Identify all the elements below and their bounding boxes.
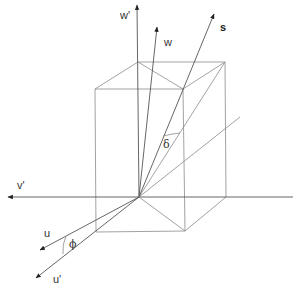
phi-arc	[63, 236, 66, 254]
w-prime-axis	[137, 5, 139, 197]
label-phi: ϕ	[69, 238, 77, 251]
labels: w' w s v' u u' δ ϕ	[17, 9, 226, 285]
w-axis	[139, 27, 157, 197]
diagonal-line	[139, 117, 240, 197]
axes	[8, 5, 293, 278]
label-u: u	[44, 227, 50, 239]
delta-arc	[163, 133, 180, 136]
u-axis	[40, 197, 139, 250]
label-v-prime: v'	[17, 179, 25, 191]
vector-diagram: w' w s v' u u' δ ϕ	[0, 0, 298, 288]
label-w: w	[163, 36, 172, 48]
label-s: s	[220, 21, 226, 33]
label-w-prime: w'	[119, 9, 130, 21]
prism-box	[95, 62, 226, 232]
label-u-prime: u'	[53, 273, 61, 285]
s-vector	[139, 14, 214, 197]
angle-markers	[63, 133, 180, 254]
u-prime-axis	[36, 197, 139, 278]
label-delta: δ	[163, 138, 170, 151]
